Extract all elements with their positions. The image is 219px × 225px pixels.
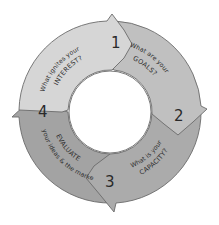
cycle-diagram: 1 2 3 4 What ignites your INTEREST? What… [0, 0, 219, 225]
step-3-number: 3 [105, 173, 115, 191]
cycle-center [69, 71, 151, 153]
step-1-number: 1 [111, 34, 121, 52]
step-2-number: 2 [174, 107, 184, 125]
step-4-number: 4 [38, 103, 48, 121]
